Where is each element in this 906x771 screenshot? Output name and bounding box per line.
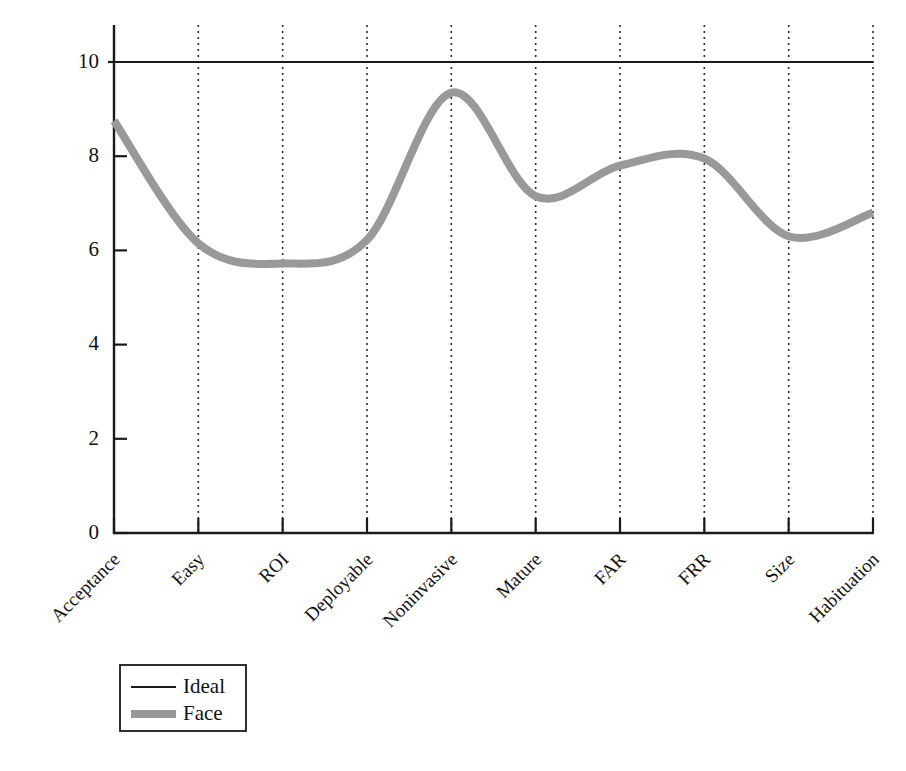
legend-label-ideal: Ideal: [183, 674, 225, 698]
legend: Ideal Face: [120, 665, 246, 731]
chart-page: 0246810 AcceptanceEasyROIDeployableNonin…: [0, 0, 906, 771]
chart-background: [0, 0, 906, 771]
line-chart: 0246810 AcceptanceEasyROIDeployableNonin…: [0, 0, 906, 771]
y-tick-label-6: 6: [89, 237, 100, 261]
y-tick-label-4: 4: [89, 331, 100, 355]
y-tick-label-2: 2: [89, 426, 100, 450]
y-tick-label-10: 10: [78, 49, 99, 73]
y-tick-label-8: 8: [89, 143, 100, 167]
legend-label-face: Face: [183, 701, 223, 725]
y-tick-label-0: 0: [89, 520, 100, 544]
